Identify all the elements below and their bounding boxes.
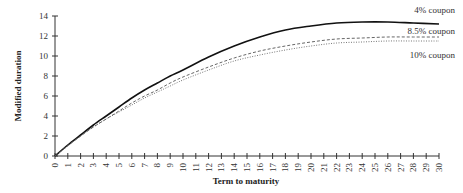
x-tick-label: 5: [114, 163, 124, 168]
series-line-4-coupon: [55, 22, 439, 156]
legend-label: 8.5% coupon: [408, 26, 456, 36]
y-tick-label: 14: [39, 11, 49, 21]
y-tick-label: 4: [44, 111, 49, 121]
x-tick-label: 17: [268, 163, 278, 173]
duration-chart: 0246810121401234567891011121314151617181…: [0, 0, 463, 193]
y-tick-label: 2: [44, 131, 49, 141]
x-tick-label: 12: [204, 163, 214, 172]
series-group: [55, 22, 439, 156]
x-tick-label: 13: [216, 163, 226, 173]
axes: 0246810121401234567891011121314151617181…: [39, 11, 444, 172]
x-tick-label: 1: [63, 163, 73, 168]
x-tick-label: 4: [101, 163, 111, 168]
x-tick-label: 19: [293, 163, 303, 173]
x-tick-label: 2: [76, 163, 86, 168]
x-axis-title: Term to maturity: [213, 176, 280, 186]
x-tick-label: 14: [229, 163, 239, 173]
legend: 4% coupon8.5% coupon10% coupon: [408, 5, 456, 60]
x-tick-label: 6: [127, 163, 137, 168]
x-tick-label: 26: [383, 163, 393, 173]
x-tick-label: 3: [88, 163, 98, 168]
x-tick-label: 23: [344, 163, 354, 173]
x-tick-label: 22: [332, 163, 342, 172]
x-tick-label: 21: [319, 163, 329, 172]
legend-label: 10% coupon: [410, 50, 456, 60]
x-tick-label: 27: [396, 163, 406, 173]
x-tick-label: 8: [152, 163, 162, 168]
x-tick-label: 18: [280, 163, 290, 173]
y-tick-label: 10: [39, 51, 49, 61]
x-tick-label: 0: [50, 163, 60, 168]
series-line-8-5-coupon: [55, 37, 439, 156]
x-tick-label: 7: [140, 163, 150, 168]
x-tick-label: 28: [408, 163, 418, 173]
y-tick-label: 8: [44, 71, 49, 81]
y-tick-label: 6: [44, 91, 49, 101]
x-tick-label: 11: [191, 163, 201, 172]
legend-label: 4% coupon: [414, 5, 455, 15]
x-tick-label: 24: [357, 163, 367, 173]
y-tick-label: 0: [44, 151, 49, 161]
y-tick-label: 12: [39, 31, 48, 41]
x-tick-label: 29: [421, 163, 431, 173]
x-tick-label: 16: [255, 163, 265, 173]
x-tick-label: 25: [370, 163, 380, 173]
series-line-10-coupon: [55, 41, 439, 156]
x-tick-label: 9: [165, 163, 175, 168]
x-tick-label: 30: [434, 163, 444, 173]
x-tick-label: 15: [242, 163, 252, 173]
x-tick-label: 20: [306, 163, 316, 173]
x-tick-label: 10: [178, 163, 188, 173]
y-axis-title: Modified duration: [13, 51, 23, 122]
